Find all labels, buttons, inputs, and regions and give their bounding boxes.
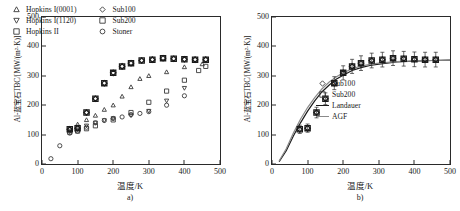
legend-a-item: Hopkins II <box>10 26 76 37</box>
data-point-hopkins-i-1120- <box>182 86 186 90</box>
x-tick-mark-b <box>378 160 379 164</box>
x-tick-mark-b <box>414 160 415 164</box>
data-point-sub100 <box>171 56 176 61</box>
y-tick-label-b: 0 <box>265 160 269 168</box>
x-tick-label-a: 0 <box>40 168 44 176</box>
legend-a: Hopkins I(0001)Sub100Hopkins I(1120)Sub2… <box>10 4 136 37</box>
square-marker-icon <box>316 90 329 99</box>
curve-landauer <box>279 60 450 161</box>
diamond-marker-icon <box>96 5 109 14</box>
panel-caption-b: b) <box>357 193 364 202</box>
data-point-hopkins-ii <box>165 89 169 93</box>
panel-a: Al-蓝宝石TBC/[MW/(m²·K)] 010020030040050001… <box>0 0 230 211</box>
line-swatch-gray-icon <box>316 116 329 117</box>
data-point-hopkins-i-1120- <box>165 99 169 103</box>
legend-b-item: Landauer <box>316 100 361 111</box>
x-tick-mark-a <box>77 160 78 164</box>
data-point-hopkins-i-0001- <box>84 118 88 122</box>
plot-area-b: 01002003004005000100200300400500 <box>271 16 451 165</box>
data-layer-b <box>272 17 450 164</box>
error-bar <box>412 52 416 67</box>
legend-b-label: AGF <box>329 113 347 121</box>
error-bar <box>380 52 384 67</box>
data-point-hopkins-i-0001- <box>102 108 106 112</box>
data-point-sub100 <box>102 81 107 86</box>
x-axis-label-b: 温度/K <box>347 179 374 191</box>
legend-b-label: Sub200 <box>329 91 355 99</box>
legend-b-label: Sub100 <box>329 80 355 88</box>
legend-a-label: Hopkins II <box>23 28 59 36</box>
data-point-sub100 <box>160 56 165 61</box>
y-tick-label-b: 200 <box>257 101 269 109</box>
y-tick-mark-b <box>272 17 276 18</box>
data-point-stoner <box>138 111 142 115</box>
legend-a-label: Sub200 <box>109 17 135 25</box>
y-tick-label-b: 100 <box>257 131 269 139</box>
triangle-down-marker-icon <box>10 16 23 25</box>
data-point-stoner <box>120 115 124 119</box>
legend-a-item: Hopkins I(1120) <box>10 15 76 26</box>
x-tick-mark-a <box>148 160 149 164</box>
y-tick-mark-b <box>272 164 276 165</box>
data-point-hopkins-ii <box>182 78 186 82</box>
legend-a-item: Sub100 <box>96 4 135 15</box>
x-tick-mark-b <box>272 160 273 164</box>
y-axis-label-b: Al-蓝宝石TBC/[MW/(m²·K)] <box>241 4 255 154</box>
y-tick-label-a: 300 <box>27 72 39 80</box>
x-tick-label-b: 300 <box>373 168 385 176</box>
diamond-marker-icon <box>316 79 329 88</box>
legend-b-item: Sub100 <box>316 78 361 89</box>
y-tick-label-a: 200 <box>27 101 39 109</box>
y-tick-mark-a <box>42 164 46 165</box>
data-point-hopkins-i-0001- <box>182 65 186 69</box>
y-tick-mark-b <box>272 134 276 135</box>
data-point-sub100 <box>192 57 197 62</box>
x-tick-label-b: 0 <box>270 168 274 176</box>
x-tick-label-b: 400 <box>408 168 420 176</box>
x-tick-label-a: 300 <box>143 168 155 176</box>
data-point-hopkins-ii <box>147 100 151 104</box>
legend-a-item: Stoner <box>96 26 135 37</box>
x-tick-mark-b <box>307 160 308 164</box>
legend-a-label: Sub100 <box>109 6 135 14</box>
data-point-sub100 <box>93 96 98 101</box>
y-tick-mark-a <box>42 75 46 76</box>
data-point-stoner <box>58 144 62 148</box>
y-tick-mark-a <box>42 134 46 135</box>
panel-caption-a: a) <box>127 193 133 202</box>
line-swatch-dark-icon <box>316 105 329 106</box>
data-point-sub100 <box>84 110 89 115</box>
data-layer-a <box>42 17 220 164</box>
line-swatch <box>316 116 329 117</box>
x-tick-mark-b <box>343 160 344 164</box>
y-tick-label-b: 400 <box>257 42 269 50</box>
x-tick-mark-a <box>220 160 221 164</box>
x-tick-mark-a <box>113 160 114 164</box>
x-tick-mark-b <box>450 160 451 164</box>
data-point-stoner <box>49 157 53 161</box>
data-point-hopkins-i-0001- <box>120 94 124 98</box>
data-point-sub100 <box>139 58 144 63</box>
line-swatch <box>316 105 329 106</box>
error-bar <box>434 52 438 67</box>
y-tick-label-b: 500 <box>257 13 269 21</box>
y-tick-mark-b <box>272 46 276 47</box>
y-tick-mark-a <box>42 105 46 106</box>
data-point-hopkins-i-0001- <box>138 77 142 81</box>
data-point-hopkins-i-0001- <box>147 74 151 78</box>
figure-root: Al-蓝宝石TBC/[MW/(m²·K)] 010020030040050001… <box>0 0 460 211</box>
triangle-up-marker-icon <box>10 5 23 14</box>
legend-a-label: Hopkins I(0001) <box>23 6 76 14</box>
error-bar <box>423 52 427 67</box>
legend-b-item: AGF <box>316 111 361 122</box>
y-tick-mark-b <box>272 105 276 106</box>
y-tick-mark-b <box>272 75 276 76</box>
y-tick-mark-a <box>42 46 46 47</box>
data-point-hopkins-i-0001- <box>165 70 169 74</box>
x-tick-label-b: 200 <box>337 168 349 176</box>
circle-marker-icon <box>96 27 109 36</box>
plot-area-a: 01002003004005000100200300400500 <box>41 16 221 165</box>
legend-a-item: Sub200 <box>96 15 135 26</box>
data-point-hopkins-ii <box>197 68 201 72</box>
square-marker-icon <box>10 27 23 36</box>
